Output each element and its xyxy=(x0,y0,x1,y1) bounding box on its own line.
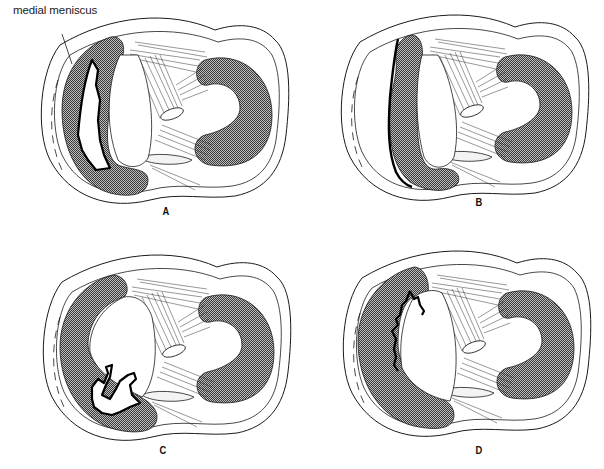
panel-label-d: D xyxy=(476,444,483,456)
medial-meniscus-callout: medial meniscus xyxy=(13,4,97,16)
panel-c xyxy=(43,255,290,440)
panel-label-b: B xyxy=(476,196,483,208)
panel-d xyxy=(343,251,590,436)
panel-label-a: A xyxy=(163,205,170,217)
panel-label-c: C xyxy=(160,444,167,456)
panel-b xyxy=(341,15,588,200)
meniscus-tear-figure xyxy=(0,0,604,469)
panel-a xyxy=(41,18,288,203)
